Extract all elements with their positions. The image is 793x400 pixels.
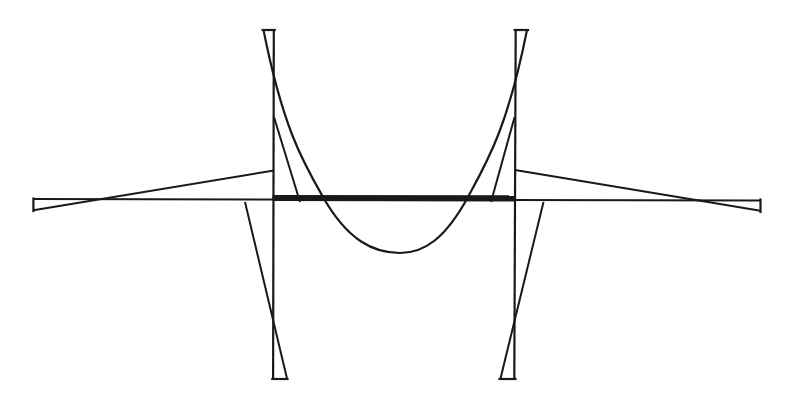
figure-page [0,0,793,400]
right-fan-line [491,117,515,202]
right-strip-vertical [514,30,515,379]
left-fan-line [274,117,300,202]
function-curve [264,30,528,253]
left-lower-slope-line [245,202,287,379]
right-lower-slope-line [501,202,544,379]
figure-svg [0,0,793,400]
right-shallow-slope-line [515,170,761,211]
left-shallow-slope-line [33,171,274,211]
